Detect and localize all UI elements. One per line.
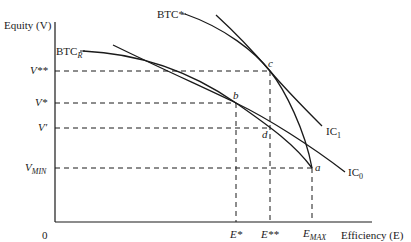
point-a-label: a — [315, 162, 321, 173]
btc-star-curve — [185, 14, 312, 168]
ic0-curve — [113, 45, 345, 172]
ic0-label-main: IC — [348, 166, 359, 178]
x-axis-label-text: Efficiency (E) — [341, 229, 403, 241]
ic1-label-main: IC — [326, 125, 337, 137]
tick-e-max-sub: MAX — [310, 233, 326, 242]
diagram-canvas — [0, 0, 411, 242]
point-b-label: b — [233, 90, 239, 101]
x-axis-label: Efficiency (E) — [341, 230, 403, 241]
ic0-label: IC0 — [348, 167, 363, 181]
point-d-label: d — [262, 129, 268, 140]
btc-r-label: BTCR — [56, 46, 82, 60]
tick-e-star: E* — [230, 229, 242, 240]
ic1-curve — [216, 15, 322, 126]
btc-r-curve — [83, 51, 312, 168]
btc-r-label-main: BTC — [56, 45, 77, 57]
tick-e-max: EMAX — [303, 228, 326, 242]
origin-label: 0 — [42, 230, 48, 241]
tick-e-max-main: E — [303, 227, 310, 239]
tick-v-min: VMIN — [25, 162, 46, 176]
tick-v-min-sub: MIN — [32, 167, 47, 176]
point-c-label: c — [268, 58, 273, 69]
equity-efficiency-diagram: Equity (V) Efficiency (E) 0 V** V* V′ VM… — [0, 0, 411, 242]
y-axis-label: Equity (V) — [4, 20, 51, 31]
tick-v-prime: V′ — [38, 122, 47, 133]
ic1-label-sub: 1 — [337, 131, 341, 140]
tick-v-star: V* — [35, 97, 47, 108]
btc-r-label-sub: R — [77, 51, 82, 60]
btc-star-label: BTC* — [157, 9, 184, 20]
tick-v-double-star: V** — [30, 65, 48, 76]
tick-v-min-main: V — [25, 161, 32, 173]
y-axis-label-text: Equity (V) — [4, 19, 51, 31]
tick-e-double-star: E** — [261, 229, 279, 240]
ic0-label-sub: 0 — [359, 172, 363, 181]
ic1-label: IC1 — [326, 126, 341, 140]
